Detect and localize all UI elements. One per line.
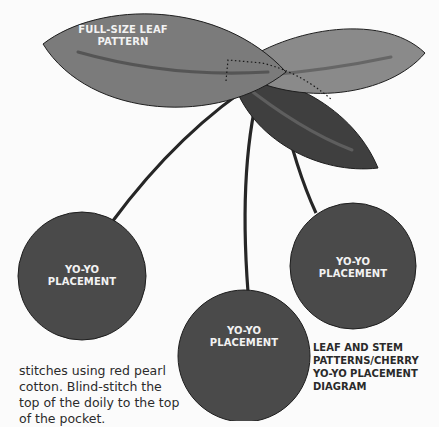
yoyo-label-line: YO-YO	[32, 264, 132, 276]
paragraph-line: top of the doily to the top	[19, 395, 199, 411]
yoyo-label-right: YO-YO PLACEMENT	[303, 256, 403, 280]
yoyo-label-line: YO-YO	[194, 325, 294, 337]
yoyo-label-line: YO-YO	[303, 256, 403, 268]
diagram-caption: LEAF AND STEM PATTERNS/CHERRY YO-YO PLAC…	[313, 341, 439, 393]
paragraph-line: cotton. Blind-stitch the	[19, 379, 199, 395]
yoyo-label-line: PLACEMENT	[194, 337, 294, 349]
caption-line: PATTERNS/CHERRY	[313, 354, 439, 367]
yoyo-label-line: PLACEMENT	[303, 268, 403, 280]
paragraph-line: of the pocket.	[19, 411, 199, 427]
instruction-paragraph: stitches using red pearl cotton. Blind-s…	[19, 363, 199, 427]
leaf-pattern-label: FULL-SIZE LEAF PATTERN	[68, 24, 178, 48]
yoyo-label-left: YO-YO PLACEMENT	[32, 264, 132, 288]
caption-line: LEAF AND STEM	[313, 341, 439, 354]
caption-line: YO-YO PLACEMENT	[313, 367, 439, 380]
leaf-pattern-label-line: FULL-SIZE LEAF	[68, 24, 178, 36]
yoyo-label-middle: YO-YO PLACEMENT	[194, 325, 294, 349]
yoyo-label-line: PLACEMENT	[32, 276, 132, 288]
paragraph-line: stitches using red pearl	[19, 363, 199, 379]
caption-line: DIAGRAM	[313, 380, 439, 393]
leaf-pattern-label-line: PATTERN	[68, 36, 178, 48]
